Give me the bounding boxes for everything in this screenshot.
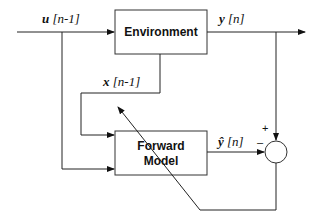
state-signal: x [n-1] <box>81 54 160 135</box>
minus-sign: – <box>257 136 264 148</box>
prediction-label: ŷ [n] <box>216 134 244 149</box>
prediction-signal: ŷ [n] <box>207 134 264 152</box>
input-signal: u [n-1] <box>17 11 114 169</box>
output-label: y [n] <box>217 11 245 26</box>
summing-junction: + – <box>257 122 287 163</box>
input-label: u [n-1] <box>42 11 80 26</box>
forward-model-block: Forward Model <box>115 131 207 175</box>
block-diagram: Environment Forward Model u [n-1] y [n] … <box>0 0 321 224</box>
environment-label: Environment <box>124 25 197 39</box>
plus-sign: + <box>262 122 268 134</box>
environment-block: Environment <box>115 10 207 54</box>
forward-model-label-1: Forward <box>137 139 184 153</box>
state-label: x [n-1] <box>102 74 140 89</box>
output-signal: y [n] <box>207 11 305 140</box>
